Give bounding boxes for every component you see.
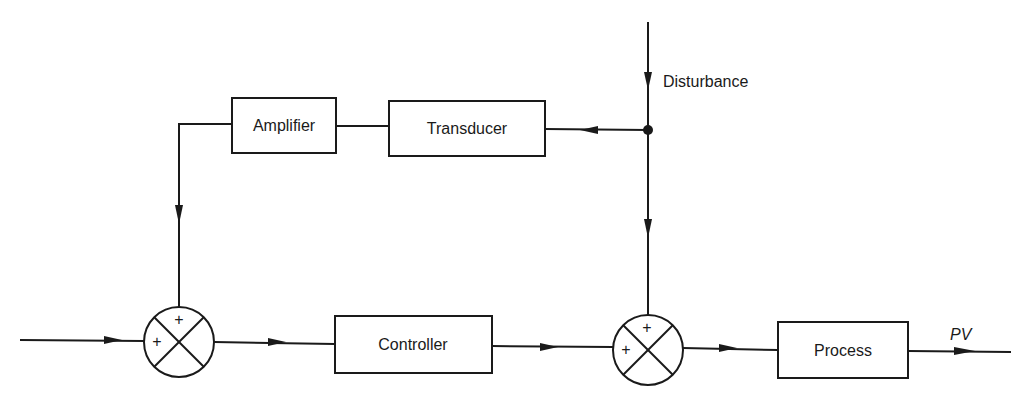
input-signal: [20, 336, 144, 344]
controller-block: Controller: [335, 316, 492, 373]
arrow-right-icon: [540, 343, 558, 351]
pv-output: PV: [908, 326, 1011, 355]
arrow-down-icon: [644, 219, 652, 238]
amplifier-label: Amplifier: [253, 117, 316, 134]
transducer-label: Transducer: [427, 120, 508, 137]
summing-junction-1: + +: [144, 307, 214, 377]
amplifier-block: Amplifier: [232, 98, 336, 153]
arrow-right-icon: [268, 338, 286, 346]
controller-label: Controller: [378, 336, 448, 353]
block-diagram: + + Controller + + Process PV: [0, 0, 1033, 411]
arrow-right-icon: [104, 336, 122, 344]
sum1-to-controller: [214, 338, 335, 346]
sum2-left-sign: +: [621, 341, 630, 358]
branch-to-sum2: [644, 130, 652, 315]
process-block: Process: [778, 322, 908, 378]
branch-to-transducer: [545, 126, 648, 134]
transducer-block: Transducer: [389, 101, 545, 156]
arrow-right-icon: [954, 347, 975, 355]
arrow-down-icon: [644, 72, 652, 90]
disturbance-input: Disturbance: [644, 22, 748, 130]
sum2-top-sign: +: [642, 319, 651, 336]
sum2-to-process: [683, 344, 778, 352]
summing-junction-2: + +: [613, 315, 683, 385]
pv-label: PV: [950, 326, 973, 343]
sum1-top-sign: +: [174, 311, 183, 328]
disturbance-label: Disturbance: [663, 73, 748, 90]
process-label: Process: [814, 342, 872, 359]
amplifier-to-sum1: [175, 124, 232, 307]
sum1-left-sign: +: [152, 333, 161, 350]
arrow-right-icon: [719, 344, 737, 352]
arrow-left-icon: [580, 126, 598, 134]
arrow-down-icon: [175, 205, 183, 224]
controller-to-sum2: [492, 343, 613, 351]
